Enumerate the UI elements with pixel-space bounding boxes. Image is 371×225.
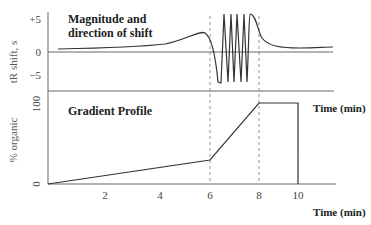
xtick-4: 4 bbox=[157, 189, 163, 201]
ytick-plus5: +5 bbox=[29, 13, 41, 25]
ytick-bottom-0: 0 bbox=[30, 181, 42, 187]
top-y-axis-label: tR shift, s bbox=[7, 41, 19, 83]
ytick-minus5: −5 bbox=[29, 69, 41, 81]
x-axis-label-bottom: Time (min) bbox=[313, 206, 366, 219]
chart-figure: +5 0 −5 100 0 tR shift, s % organic Magn… bbox=[0, 0, 371, 225]
top-title-line1: Magnitude and bbox=[68, 12, 147, 26]
top-title-line2: direction of shift bbox=[68, 26, 152, 40]
xtick-8: 8 bbox=[256, 189, 262, 201]
xtick-2: 2 bbox=[102, 189, 108, 201]
x-axis-label-mid: Time (min) bbox=[313, 102, 366, 115]
ytick-100: 100 bbox=[30, 95, 42, 112]
xtick-6: 6 bbox=[207, 189, 213, 201]
ytick-0: 0 bbox=[36, 46, 42, 58]
xtick-10: 10 bbox=[293, 189, 305, 201]
bottom-title: Gradient Profile bbox=[68, 104, 153, 118]
bottom-y-axis-label: % organic bbox=[7, 118, 19, 163]
